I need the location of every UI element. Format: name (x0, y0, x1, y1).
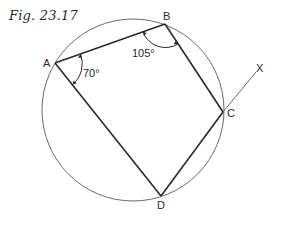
side-bc (165, 24, 223, 112)
side-cd (161, 112, 223, 196)
angle-label-a: 70° (83, 67, 100, 79)
angle-arc-a (73, 54, 83, 85)
cyclic-quadrilateral-diagram: A B C D X 70° 105° (0, 0, 282, 225)
point-label-d: D (157, 199, 165, 211)
point-label-x: X (256, 62, 264, 74)
point-label-c: C (227, 107, 235, 119)
point-label-b: B (163, 10, 170, 22)
extension-cx (223, 72, 256, 112)
point-label-a: A (43, 57, 51, 69)
angle-label-b: 105° (132, 47, 155, 59)
